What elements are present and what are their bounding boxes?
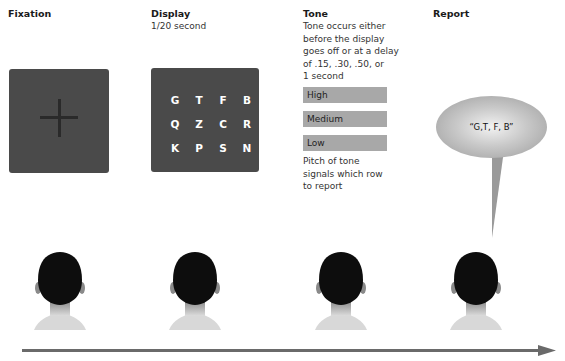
letter: N xyxy=(235,136,259,160)
report-text: “G,T, F, B” xyxy=(469,122,513,132)
letter: P xyxy=(187,136,211,160)
stage-title-tone: Tone xyxy=(303,8,328,19)
tone-level-high: High xyxy=(303,87,387,103)
letter: T xyxy=(187,88,211,112)
letter: R xyxy=(235,112,259,136)
observer-head-icon xyxy=(165,250,225,330)
letter: G xyxy=(163,88,187,112)
observer-head-icon xyxy=(446,250,506,330)
tone-level-low: Low xyxy=(303,135,387,151)
stage-title-fixation: Fixation xyxy=(8,8,51,19)
letter: S xyxy=(211,136,235,160)
letter: B xyxy=(235,88,259,112)
tone-description: Tone occurs either before the display go… xyxy=(303,20,399,83)
tone-description-line: 1 second xyxy=(303,70,399,83)
letter-grid: G T F B Q Z C R K P S N xyxy=(163,88,259,160)
tone-description-line: before the display xyxy=(303,33,399,46)
fixation-panel xyxy=(9,69,109,173)
tone-footer-line: Pitch of tone xyxy=(303,155,383,168)
letter: Z xyxy=(187,112,211,136)
tone-description-line: goes off or at a delay xyxy=(303,45,399,58)
timeline-arrow-icon xyxy=(18,344,558,358)
observer-head-icon xyxy=(311,250,371,330)
stage-title-report: Report xyxy=(433,8,469,19)
tone-description-line: of .15, .30, .50, or xyxy=(303,58,399,71)
letter: K xyxy=(163,136,187,160)
observer-head-icon xyxy=(30,250,90,330)
letter-display-panel: G T F B Q Z C R K P S N xyxy=(151,68,259,172)
tone-footer-line: signals which row xyxy=(303,168,383,181)
tone-level-medium: Medium xyxy=(303,111,387,127)
stage-title-display: Display xyxy=(151,8,190,19)
display-duration: 1/20 second xyxy=(151,20,206,33)
tone-description-line: Tone occurs either xyxy=(303,20,399,33)
letter: Q xyxy=(163,112,187,136)
letter: C xyxy=(211,112,235,136)
tone-footer: Pitch of tone signals which row to repor… xyxy=(303,155,383,193)
tone-footer-line: to report xyxy=(303,180,383,193)
letter: F xyxy=(211,88,235,112)
fixation-cross-icon xyxy=(40,116,78,119)
report-speech-bubble: “G,T, F, B” xyxy=(436,96,547,158)
